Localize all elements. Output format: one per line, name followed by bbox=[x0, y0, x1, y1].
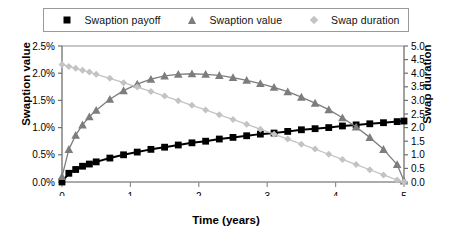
data-point-marker bbox=[401, 118, 408, 125]
data-point-marker bbox=[134, 149, 141, 156]
plot-svg: 0.0%0.5%1.0%1.5%2.0%2.5%0.00.51.01.52.02… bbox=[0, 36, 452, 196]
y-left-tick-label: 0.5% bbox=[32, 149, 55, 160]
data-point-marker bbox=[189, 139, 196, 146]
data-point-marker bbox=[312, 125, 319, 132]
series-line bbox=[62, 74, 404, 181]
data-point-marker bbox=[79, 67, 86, 74]
data-point-marker bbox=[120, 151, 127, 158]
data-point-marker bbox=[243, 132, 250, 139]
data-point-marker bbox=[161, 144, 168, 151]
y-right-tick-label: 0.5 bbox=[411, 163, 425, 174]
data-point-marker bbox=[339, 156, 346, 163]
y-left-tick-label: 2.0% bbox=[32, 68, 55, 79]
data-point-marker bbox=[230, 134, 237, 141]
triangle-marker-icon bbox=[188, 16, 196, 24]
legend-sample-swaption-payoff bbox=[52, 14, 82, 26]
data-point-marker bbox=[243, 121, 250, 128]
data-point-marker bbox=[311, 99, 320, 107]
data-point-marker bbox=[58, 172, 67, 180]
data-point-marker bbox=[106, 75, 113, 82]
data-point-marker bbox=[366, 166, 373, 173]
x-tick-label: 3 bbox=[264, 191, 270, 196]
y-right-tick-label: 0.0 bbox=[411, 177, 425, 188]
data-point-marker bbox=[148, 146, 155, 153]
data-point-marker bbox=[175, 97, 182, 104]
data-point-marker bbox=[202, 138, 209, 145]
y-axis-left-title: Swaption value bbox=[20, 9, 32, 159]
legend-item-swaption-value: Swaption value bbox=[177, 14, 282, 26]
data-point-marker bbox=[298, 126, 305, 133]
data-point-marker bbox=[353, 161, 360, 168]
data-point-marker bbox=[202, 106, 209, 113]
data-point-marker bbox=[188, 102, 195, 109]
data-point-marker bbox=[71, 131, 80, 139]
data-point-marker bbox=[230, 116, 237, 123]
y-left-tick-label: 1.5% bbox=[32, 95, 55, 106]
data-point-marker bbox=[65, 63, 72, 70]
data-point-marker bbox=[79, 163, 86, 170]
data-point-marker bbox=[216, 136, 223, 143]
series-group bbox=[58, 61, 409, 186]
legend-label-swaption-payoff: Swaption payoff bbox=[82, 14, 160, 26]
legend-sample-swap-duration bbox=[299, 14, 329, 26]
data-point-marker bbox=[86, 161, 93, 168]
plot-area: 0.0%0.5%1.0%1.5%2.0%2.5%0.00.51.01.52.02… bbox=[0, 36, 452, 196]
legend-label-swap-duration: Swap duration bbox=[329, 14, 399, 26]
data-point-marker bbox=[106, 95, 115, 103]
square-marker-icon bbox=[64, 17, 71, 24]
legend-label-swaption-value: Swaption value bbox=[207, 14, 282, 26]
x-tick-label: 0 bbox=[59, 191, 65, 196]
data-point-marker bbox=[297, 93, 306, 101]
data-point-marker bbox=[325, 124, 332, 131]
data-point-marker bbox=[394, 118, 401, 125]
legend-sample-swaption-value bbox=[177, 14, 207, 26]
data-point-marker bbox=[216, 111, 223, 118]
data-point-marker bbox=[59, 61, 66, 68]
chart-legend: Swaption payoff Swaption value Swap dura… bbox=[43, 8, 409, 32]
x-tick-label: 2 bbox=[196, 191, 202, 196]
chart-figure: Swaption payoff Swaption value Swap dura… bbox=[0, 0, 452, 238]
data-point-marker bbox=[72, 65, 79, 72]
data-point-marker bbox=[72, 166, 79, 173]
data-point-marker bbox=[147, 88, 154, 95]
legend-item-swap-duration: Swap duration bbox=[299, 14, 399, 26]
y-left-tick-label: 2.5% bbox=[32, 41, 55, 52]
data-point-marker bbox=[65, 170, 72, 177]
data-point-marker bbox=[120, 79, 127, 86]
data-point-marker bbox=[338, 114, 347, 122]
x-tick-label: 5 bbox=[401, 191, 407, 196]
data-point-marker bbox=[86, 69, 93, 76]
data-point-marker bbox=[380, 119, 387, 126]
x-tick-label: 1 bbox=[128, 191, 134, 196]
data-point-marker bbox=[380, 171, 387, 178]
series-line bbox=[62, 65, 404, 183]
data-point-marker bbox=[93, 158, 100, 165]
data-point-marker bbox=[93, 71, 100, 78]
y-left-tick-label: 1.0% bbox=[32, 122, 55, 133]
diamond-marker-icon bbox=[310, 16, 318, 24]
data-point-marker bbox=[366, 120, 373, 127]
data-point-marker bbox=[325, 151, 332, 158]
x-tick-label: 4 bbox=[333, 191, 339, 196]
data-point-marker bbox=[324, 105, 333, 113]
data-point-marker bbox=[119, 86, 128, 94]
y-left-tick-label: 0.0% bbox=[32, 177, 55, 188]
x-axis-title: Time (years) bbox=[0, 214, 452, 226]
data-point-marker bbox=[106, 155, 113, 162]
data-point-marker bbox=[175, 142, 182, 149]
data-point-marker bbox=[298, 141, 305, 148]
data-point-marker bbox=[284, 136, 291, 143]
data-point-marker bbox=[284, 128, 291, 135]
data-point-marker bbox=[65, 145, 74, 153]
data-point-marker bbox=[312, 146, 319, 153]
legend-item-swaption-payoff: Swaption payoff bbox=[52, 14, 160, 26]
data-point-marker bbox=[366, 133, 375, 141]
data-point-marker bbox=[339, 123, 346, 130]
data-point-marker bbox=[401, 179, 408, 186]
data-point-marker bbox=[161, 93, 168, 100]
y-axis-right-title: Swap duration bbox=[421, 9, 433, 159]
